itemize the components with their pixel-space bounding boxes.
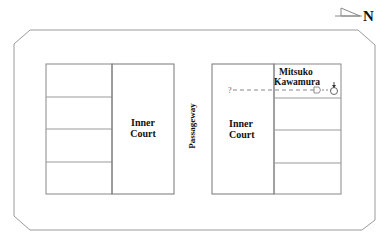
person-icon xyxy=(331,82,338,95)
right-court-label-2: Court xyxy=(229,129,255,140)
right-court-label-1: Inner xyxy=(229,118,253,129)
occupant-name-line2: Kawamura xyxy=(274,77,320,87)
footprints-icon xyxy=(314,87,321,93)
occupant-name-line1: Mitsuko xyxy=(279,67,313,77)
left-rooms xyxy=(46,64,112,194)
floor-plan: N Inner Court Passageway Inner Court Mit… xyxy=(0,0,391,238)
left-court-label-2: Court xyxy=(130,128,156,139)
question-mark: ? xyxy=(228,86,232,95)
left-court-label-1: Inner xyxy=(131,117,155,128)
north-label: N xyxy=(363,8,374,24)
north-arrow-icon xyxy=(335,8,362,16)
passageway-label: Passageway xyxy=(187,103,197,149)
